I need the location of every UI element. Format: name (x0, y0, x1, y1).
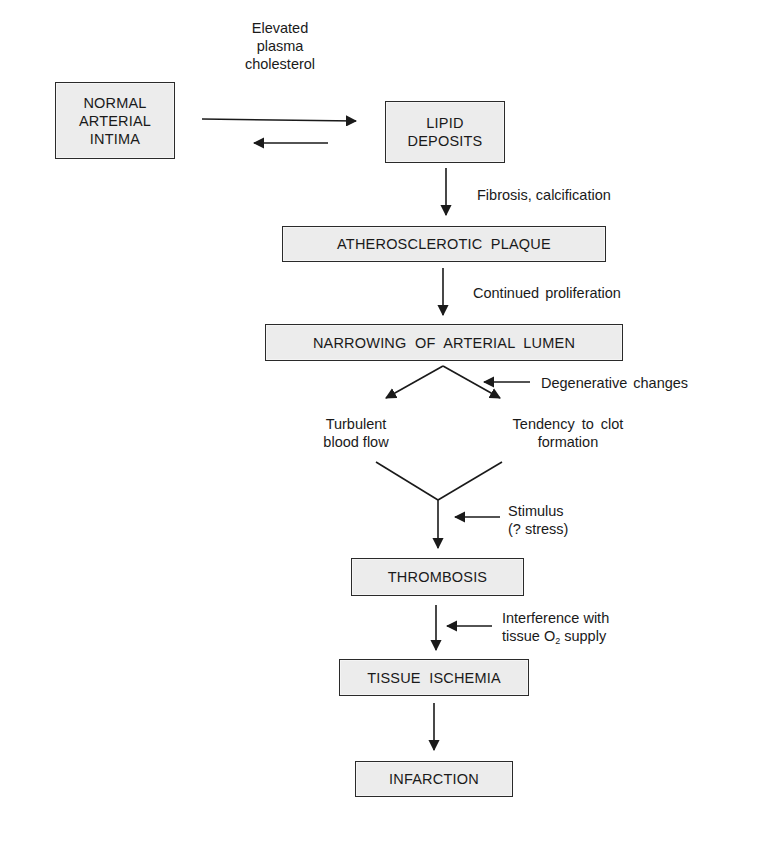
node-thrombosis: THROMBOSIS (351, 558, 524, 596)
state-label-line: blood flow (296, 433, 416, 451)
edge-label-stimulus: Stimulus (? stress) (508, 502, 568, 538)
node-label-line: INTIMA (90, 130, 140, 148)
edge-label-interference: Interference with tissue O2 supply (502, 609, 609, 650)
node-label: THROMBOSIS (388, 568, 487, 586)
edge-label-proliferation: Continued proliferation (473, 284, 621, 302)
node-label: NARROWING OF ARTERIAL LUMEN (313, 334, 575, 352)
state-tendency-to-clot-formation: Tendency to clot formation (483, 415, 653, 451)
node-label: INFARCTION (389, 770, 479, 788)
edge-label-text: supply (560, 628, 606, 644)
edge-label-elevated-cholesterol: Elevated plasma cholesterol (220, 19, 340, 73)
node-label: ATHEROSCLEROTIC PLAQUE (337, 235, 551, 253)
node-normal-arterial-intima: NORMAL ARTERIAL INTIMA (55, 82, 175, 159)
edge-label-text: tissue O (502, 628, 555, 644)
edge-label-degenerative: Degenerative changes (541, 374, 688, 392)
edge-label-line: plasma (220, 37, 340, 55)
node-lipid-deposits: LIPID DEPOSITS (385, 101, 505, 163)
state-label-line: Tendency to clot (483, 415, 653, 433)
state-label-line: formation (483, 433, 653, 451)
node-label-line: NORMAL (83, 94, 146, 112)
state-turbulent-blood-flow: Turbulent blood flow (296, 415, 416, 451)
edge-label-line: (? stress) (508, 520, 568, 538)
node-label-line: LIPID (426, 114, 463, 132)
node-atherosclerotic-plaque: ATHEROSCLEROTIC PLAQUE (282, 226, 606, 262)
node-label: TISSUE ISCHEMIA (367, 669, 501, 687)
node-label-line: ARTERIAL (79, 112, 151, 130)
edge-label-line: cholesterol (220, 55, 340, 73)
edge-label-line: Stimulus (508, 502, 568, 520)
edge-label-line: Interference with (502, 609, 609, 627)
edge-label-line: Elevated (220, 19, 340, 37)
edge-label-fibrosis: Fibrosis, calcification (477, 186, 611, 204)
node-tissue-ischemia: TISSUE ISCHEMIA (339, 659, 529, 696)
node-infarction: INFARCTION (355, 761, 513, 797)
node-narrowing-arterial-lumen: NARROWING OF ARTERIAL LUMEN (265, 324, 623, 361)
edge-label-line: tissue O2 supply (502, 627, 609, 650)
node-label-line: DEPOSITS (408, 132, 483, 150)
state-label-line: Turbulent (296, 415, 416, 433)
